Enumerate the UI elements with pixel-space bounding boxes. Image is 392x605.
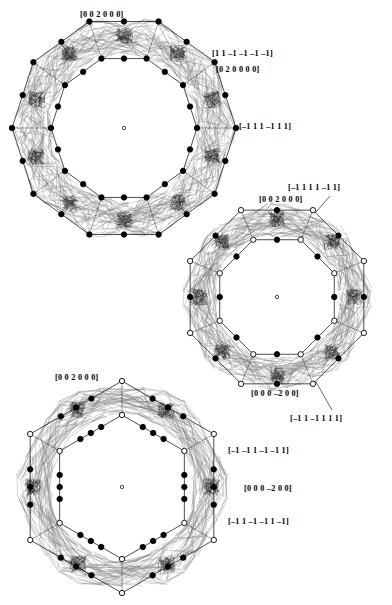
inner-edge-vertex-filled <box>234 335 239 340</box>
outer-edge-vertex-filled <box>28 467 33 472</box>
inner-edge-vertex-filled <box>182 484 187 489</box>
inner-vertex-filled <box>144 195 149 200</box>
inner-edge-vertex-filled <box>55 104 60 109</box>
inner-edge-vertex-filled <box>57 484 62 489</box>
inner-edge-vertex-filled <box>99 544 104 549</box>
outer-vertex-filled <box>31 191 36 196</box>
outer-edge-vertex-filled <box>213 233 218 238</box>
inner-edge-vertex-filled <box>274 237 279 242</box>
outer-vertex-hollow <box>361 258 366 263</box>
inner-edge-vertex-filled <box>55 147 60 152</box>
inner-edge-vertex-filled <box>78 532 83 537</box>
label-decagon-right: [–1 1 1 –1 1 1] <box>239 123 291 131</box>
inner-polygon-outline <box>60 415 185 559</box>
inner-edge-vertex-filled <box>234 254 239 259</box>
outer-vertex-hollow <box>310 381 315 386</box>
inner-edge-vertex-filled <box>182 472 187 477</box>
inner-vertex-filled <box>99 56 104 61</box>
outer-vertex-filled <box>9 125 14 130</box>
outer-vertex-hollow <box>187 258 192 263</box>
inner-edge-vertex-filled <box>80 181 85 186</box>
outer-edge-vertex-filled <box>20 158 25 163</box>
panel-octagon <box>183 202 372 391</box>
inner-edge-vertex-filled <box>217 294 222 299</box>
inner-edge-vertex-filled <box>57 472 62 477</box>
inner-edge-vertex-filled <box>99 424 104 429</box>
center-point <box>275 295 278 298</box>
outer-edge-vertex-filled <box>150 396 155 401</box>
outer-edge-vertex-filled <box>73 405 78 410</box>
inner-edge-vertex-filled <box>150 430 155 435</box>
outer-edge-vertex-filled <box>181 555 186 560</box>
outer-edge-vertex-filled <box>73 564 78 569</box>
label-hexagon-right-upper: [–1 –1 1 –1 –1 1] <box>228 447 289 455</box>
label-decagon-upper-right: [1 1 –1 –1 –1 –1] <box>212 50 273 58</box>
label-hexagon-right-lower: [–1 1 –1 –1 1 –1] <box>228 518 289 526</box>
inner-edge-vertex-filled <box>140 424 145 429</box>
inner-vertex-filled <box>48 125 53 130</box>
outer-edge-vertex-filled <box>213 356 218 361</box>
outer-vertex-hollow <box>238 381 243 386</box>
polytope-plot-canvas <box>0 0 392 605</box>
outer-edge-vertex-filled <box>211 467 216 472</box>
outer-edge-vertex-filled <box>150 573 155 578</box>
outer-vertex-hollow <box>238 207 243 212</box>
outer-edge-vertex-filled <box>20 92 25 97</box>
inner-edge-vertex-filled <box>162 181 167 186</box>
inner-vertex-filled <box>99 195 104 200</box>
inner-edge-vertex-filled <box>182 496 187 501</box>
panel-hexagon <box>16 378 228 595</box>
inner-vertex-hollow <box>332 271 337 276</box>
label-hexagon-top: [0 0 2 0 0 0] <box>55 374 99 382</box>
inner-edge-vertex-filled <box>162 69 167 74</box>
outer-edge-vertex-filled <box>181 414 186 419</box>
outer-edge-vertex-filled <box>184 211 189 216</box>
outer-edge-vertex-filled <box>165 564 170 569</box>
label-decagon-top: [0 0 2 0 0 0] <box>80 11 124 19</box>
outer-vertex-hollow <box>28 431 33 436</box>
inner-edge-vertex-filled <box>161 436 166 441</box>
outer-edge-vertex-filled <box>187 294 192 299</box>
inner-vertex-hollow <box>251 352 256 357</box>
outer-vertex-hollow <box>211 431 216 436</box>
inner-vertex-filled <box>144 56 149 61</box>
outer-edge-vertex-filled <box>336 356 341 361</box>
inner-vertex-hollow <box>119 412 124 417</box>
outer-edge-vertex-filled <box>165 405 170 410</box>
inner-edge-vertex-filled <box>274 352 279 357</box>
panel-decagon <box>9 19 238 237</box>
inner-edge-vertex-filled <box>88 538 93 543</box>
outer-edge-vertex-filled <box>223 158 228 163</box>
outer-vertex-filled <box>31 59 36 64</box>
inner-edge-vertex-filled <box>88 430 93 435</box>
outer-edge-vertex-filled <box>89 573 94 578</box>
outer-vertex-filled <box>233 125 238 130</box>
inner-edge-vertex-filled <box>121 195 126 200</box>
center-point <box>122 126 125 129</box>
inner-vertex-filled <box>194 125 199 130</box>
outer-edge-vertex-filled <box>59 39 64 44</box>
outer-edge-vertex-filled <box>223 92 228 97</box>
inner-vertex-hollow <box>298 237 303 242</box>
outer-edge-vertex-filled <box>184 39 189 44</box>
inner-vertex-hollow <box>332 318 337 323</box>
inner-edge-vertex-filled <box>80 69 85 74</box>
outer-vertex-filled <box>212 191 217 196</box>
outer-edge-vertex-filled <box>89 396 94 401</box>
outer-vertex-filled <box>156 232 161 237</box>
outer-edge-vertex-filled <box>361 294 366 299</box>
center-point <box>120 485 123 488</box>
inner-vertex-hollow <box>217 271 222 276</box>
inner-edge-vertex-filled <box>150 538 155 543</box>
inner-vertex-hollow <box>119 556 124 561</box>
label-octagon-bottom-right: [–1 1 –1 1 1 1] <box>290 415 342 423</box>
outer-vertex-filled <box>87 19 92 24</box>
inner-vertex-filled <box>62 168 67 173</box>
outer-edge-vertex-filled <box>274 381 279 386</box>
label-octagon-bottom: [0 0 0 –2 0 0] <box>251 390 299 398</box>
outer-edge-vertex-filled <box>336 233 341 238</box>
outer-edge-vertex-filled <box>211 502 216 507</box>
inner-vertex-hollow <box>217 318 222 323</box>
inner-vertex-filled <box>180 82 185 87</box>
label-hexagon-right-middle: [0 0 0 –2 0 0] <box>244 485 292 493</box>
